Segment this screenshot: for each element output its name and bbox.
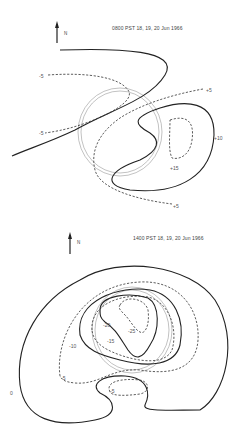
contour-map-1400 <box>0 0 238 444</box>
contour-solid-0 <box>19 266 227 423</box>
contour-label: -5 <box>110 388 114 394</box>
panel-1400: 1400 PST 18, 19, 20 Jun 1966 N -20 -25 -… <box>0 0 238 444</box>
contour-label: -20 <box>103 322 110 328</box>
contour-label: -10 <box>69 343 76 349</box>
contour-label: -15 <box>107 338 114 344</box>
contour-label: 0 <box>10 390 13 396</box>
contour-label: -5 <box>61 375 65 381</box>
contour-label: -25 <box>128 328 135 334</box>
